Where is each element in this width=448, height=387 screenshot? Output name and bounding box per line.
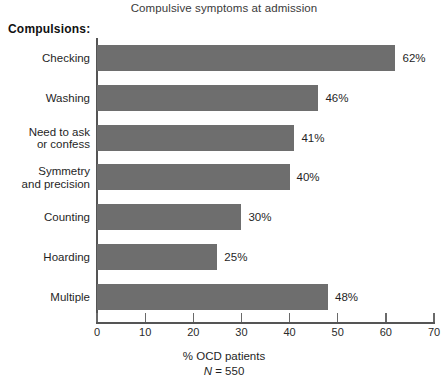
x-tick-label-50: 50 [332,326,344,338]
bar-row: Need to askor confess41% [0,125,448,151]
x-tick-20 [193,313,194,322]
x-axis-label: % OCD patients [0,350,448,362]
x-tick-0 [96,313,97,322]
bar [97,85,318,111]
bar-row: Washing46% [0,85,448,111]
bar [97,125,294,151]
bar-row: Hoarding25% [0,244,448,270]
bar-value-label: 48% [335,291,358,303]
x-tick-label-40: 40 [283,326,295,338]
bar [97,204,241,230]
sample-size-symbol: N [204,365,212,377]
bar-value-label: 25% [224,251,247,263]
bar-value-label: 30% [248,211,271,223]
bar-row: Counting30% [0,204,448,230]
category-label: Washing [0,92,90,105]
x-tick-label-0: 0 [94,326,100,338]
bar [97,244,217,270]
x-tick-30 [241,313,242,322]
bar-value-label: 40% [297,171,320,183]
x-tick-label-30: 30 [235,326,247,338]
chart-container: Compulsive symptoms at admission Compuls… [0,0,448,387]
x-tick-label-60: 60 [380,326,392,338]
bar-row: Multiple48% [0,284,448,310]
bar-row: Symmetryand precision40% [0,164,448,190]
x-axis-line [96,322,435,324]
sample-size-annotation: N = 550 [0,365,448,377]
bar-value-label: 46% [325,92,348,104]
x-tick-10 [145,313,146,322]
category-label: Hoarding [0,251,90,264]
bar-row: Checking62% [0,45,448,71]
x-tick-60 [385,313,386,322]
plot-area: 010203040506070 Checking62%Washing46%Nee… [0,0,448,387]
bar-value-label: 62% [402,52,425,64]
bar [97,284,328,310]
category-label: Counting [0,211,90,224]
sample-size-value: = 550 [215,365,244,377]
category-label: Need to askor confess [0,125,90,150]
x-tick-label-10: 10 [139,326,151,338]
category-label: Multiple [0,291,90,304]
x-tick-label-20: 20 [187,326,199,338]
category-label: Symmetryand precision [0,165,90,190]
bar [97,45,395,71]
category-label: Checking [0,52,90,65]
x-tick-label-70: 70 [428,326,440,338]
bar [97,164,290,190]
x-tick-50 [337,313,338,322]
bar-value-label: 41% [301,132,324,144]
x-tick-40 [289,313,290,322]
x-tick-70 [433,313,434,322]
